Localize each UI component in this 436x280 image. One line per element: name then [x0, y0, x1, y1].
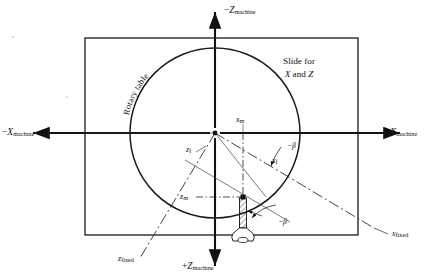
tool-holder-knob [238, 237, 248, 242]
label-x-fixed: xfixed [391, 229, 409, 239]
machine-coordinate-diagram: −Zmachine +Zmachine −Xmachine +Xmachine … [0, 0, 436, 280]
label-x-m: xm [235, 115, 245, 125]
x-fixed-axis-leader [374, 228, 388, 234]
decorative-speck [66, 96, 68, 98]
label-z-m: zm [179, 192, 188, 202]
origin-to-tool-ray [215, 133, 266, 197]
x-f-parallel-through-tool [185, 160, 290, 222]
label-negative-x-machine: −Xmachine [2, 127, 34, 138]
diagram-root: −Zmachine +Zmachine −Xmachine +Xmachine … [0, 0, 436, 280]
label-slide-for: Slide for [283, 56, 315, 66]
label-beta-upper: −β [287, 141, 296, 150]
label-beta-lower: −β [278, 217, 287, 226]
label-x-f: xf [271, 156, 279, 166]
label-z-f: zf [185, 145, 192, 155]
label-rotary-table: Rotary table [121, 71, 151, 116]
origin-point [213, 131, 218, 136]
tool-shank [240, 198, 247, 228]
label-negative-z-machine: −Zmachine [224, 5, 256, 16]
decorative-speck [12, 36, 14, 38]
label-slide-axes: X and Z [284, 69, 314, 79]
label-z-fixed: zfixed [117, 254, 135, 264]
label-positive-z-machine: +Zmachine [182, 261, 214, 272]
z-fixed-axis [140, 133, 215, 258]
label-positive-x-machine: +Xmachine [385, 127, 417, 138]
